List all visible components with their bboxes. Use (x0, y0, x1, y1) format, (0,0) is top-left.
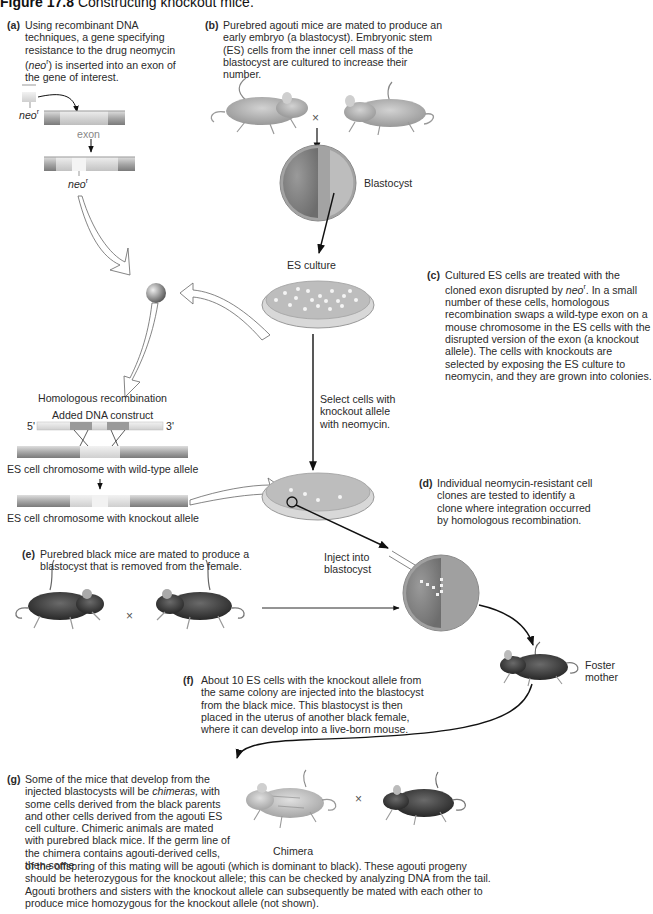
step-a-text-end: ) is inserted into an exon of the gene o… (25, 58, 176, 82)
homologous-recombination-label: Homologous recombination (38, 392, 167, 404)
foster-label: Foster (585, 659, 615, 671)
figure-title: Figure 17.8Constructing knockout mice. (0, 0, 254, 10)
added-dna-construct-bar (37, 422, 163, 430)
three-prime-label: 3' (166, 420, 174, 432)
blastocyst-label: Blastocyst (364, 177, 412, 189)
five-prime-label: 5' (27, 420, 35, 432)
chimeras-term: chimeras, (152, 785, 198, 797)
es-culture-label: ES culture (287, 259, 336, 271)
step-e-label: (e) (22, 548, 35, 560)
step-d-text: Individual neomycin-resistant cell clone… (419, 477, 594, 526)
figure-caption: Constructing knockout mice. (78, 0, 254, 10)
wild-type-chromosome-label: ES cell chromosome with wild-type allele (7, 463, 198, 475)
chimera-mouse (246, 770, 336, 828)
cross-symbol-e: × (126, 610, 133, 622)
step-b-label: (b) (205, 19, 219, 31)
step-e: (e) Purebred black mice are mated to pro… (22, 548, 262, 573)
hollow-arrow-construct (78, 196, 130, 275)
insert-arrow (38, 95, 77, 112)
neo-text: neo (68, 178, 86, 190)
wild-type-chromosome-bar (17, 446, 188, 458)
exon-bar-disrupted (44, 157, 135, 176)
knockout-chromosome-label: ES cell chromosome with knockout allele (7, 512, 199, 524)
step-d-label: (d) (419, 477, 433, 489)
chimera-label: Chimera (273, 845, 313, 857)
step-c-label: (c) (427, 269, 440, 281)
step-g-continued: of the offspring of this mating will be … (25, 860, 495, 909)
inject-into-label: Inject into (324, 551, 369, 563)
foster-mother-mouse (500, 642, 578, 686)
blastocyst-agouti (280, 145, 356, 221)
hollow-arrow-to-recombination (124, 303, 158, 397)
neo-cassette (22, 84, 36, 108)
knockout-chromosome-bar (17, 495, 188, 507)
neo-text: neo (19, 109, 37, 121)
agouti-mouse-right (344, 82, 433, 135)
step-g-label: (g) (7, 773, 21, 785)
blastocyst-black (403, 555, 479, 631)
selection-dish (262, 473, 374, 520)
step-a: (a) Using recombinant DNA techniques, a … (7, 19, 192, 83)
neo-label-bottom: neor (68, 175, 88, 190)
exon-bar-original (44, 111, 125, 125)
step-f: (f) About 10 ES cells with the knockout … (183, 674, 435, 735)
step-b-text: Purebred agouti mice are mated to produc… (205, 19, 445, 80)
step-b: (b) Purebred agouti mice are mated to pr… (205, 19, 445, 80)
step-e-text: Purebred black mice are mated to produce… (22, 548, 262, 573)
blastocyst-inject-label: blastocyst (324, 563, 371, 575)
neo-term: neo (29, 58, 47, 70)
select-cells-label: Select cells with knockout allele with n… (320, 393, 405, 430)
neo-sup: r (37, 108, 39, 115)
dna-construct-sphere (146, 283, 166, 303)
hollow-arrow-to-sphere (180, 283, 270, 340)
exon-label: exon (77, 128, 100, 140)
step-f-label: (f) (183, 674, 194, 686)
step-a-label: (a) (7, 19, 20, 31)
es-culture-dish (262, 281, 374, 328)
cross-symbol-g: × (355, 793, 362, 805)
step-d: (d) Individual neomycin-resistant cell c… (419, 477, 594, 526)
step-g: (g) Some of the mice that develop from t… (7, 773, 232, 871)
neo-term: neo (566, 284, 584, 296)
cross-symbol-b: × (312, 112, 319, 124)
step-c: (c) Cultured ES cells are treated with t… (427, 269, 652, 382)
neo-label-top: neor (19, 106, 39, 121)
crossover-lines (74, 430, 125, 446)
added-dna-construct-label: Added DNA construct (52, 409, 153, 421)
step-f-text: About 10 ES cells with the knockout alle… (183, 674, 435, 735)
neo-sup: r (86, 177, 88, 184)
mother-label: mother (585, 671, 618, 683)
black-mouse-mate (383, 772, 465, 825)
step-c-text-end: . In a small number of these cells, homo… (445, 284, 652, 382)
step-g-text-end: with some cells derived from the black p… (25, 785, 230, 871)
agouti-mouse-left (211, 78, 308, 134)
figure-number: Figure 17.8 (0, 0, 74, 10)
